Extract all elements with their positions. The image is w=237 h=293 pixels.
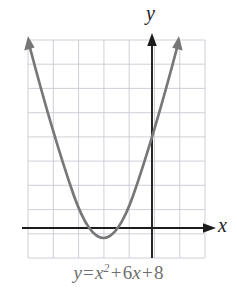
equation-term1-base: x bbox=[95, 262, 104, 283]
curve-left-arrowhead bbox=[24, 36, 34, 51]
equation-plus-1: + bbox=[110, 262, 123, 283]
equation-equals: = bbox=[82, 262, 95, 283]
y-axis-label: y bbox=[146, 2, 155, 25]
equation-term2-coefficient: 6 bbox=[123, 262, 133, 283]
curve-right-arrowhead bbox=[172, 36, 182, 51]
parabola-figure: y x y=x2+6x+8 bbox=[0, 0, 237, 293]
x-axis-label: x bbox=[218, 214, 227, 237]
grid-lines bbox=[28, 40, 205, 258]
y-axis-arrowhead bbox=[147, 33, 157, 46]
x-axis-arrowhead bbox=[203, 223, 216, 233]
equation-term3-constant: 8 bbox=[154, 262, 164, 283]
equation-lhs: y bbox=[73, 262, 82, 283]
equation-term1-exponent: 2 bbox=[104, 262, 110, 275]
equation-term2-variable: x bbox=[132, 262, 141, 283]
equation-caption: y=x2+6x+8 bbox=[0, 262, 237, 284]
equation-plus-2: + bbox=[141, 262, 154, 283]
graph-plot-area bbox=[0, 0, 237, 293]
